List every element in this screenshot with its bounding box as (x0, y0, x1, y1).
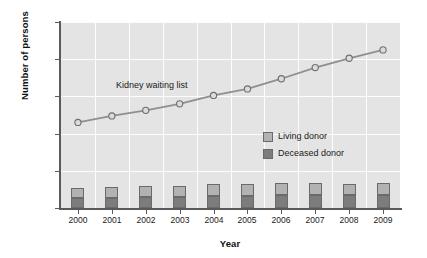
x-tick-mark (112, 210, 113, 214)
gridline-vertical (264, 22, 265, 208)
bar-segment-deceased-donor (309, 195, 322, 208)
y-axis-line (59, 21, 61, 210)
bar-segment-living-donor (105, 187, 118, 197)
legend-label-deceased-donor: Deceased donor (278, 149, 344, 158)
x-tick-label: 2009 (363, 216, 403, 225)
line-series-annotation: Kidney waiting list (116, 80, 188, 90)
legend-label-living-donor: Living donor (278, 132, 327, 141)
x-tick-mark (315, 210, 316, 214)
bar-segment-deceased-donor (105, 198, 118, 208)
bar-segment-deceased-donor (71, 198, 84, 208)
bar-segment-deceased-donor (377, 195, 390, 208)
bar-segment-living-donor (343, 184, 356, 195)
legend-swatch-living-donor (263, 132, 273, 142)
bar-segment-deceased-donor (241, 196, 254, 208)
x-tick-mark (180, 210, 181, 214)
y-tick-mark (55, 22, 59, 23)
gridline-vertical (366, 22, 367, 208)
gridline-vertical (231, 22, 232, 208)
y-axis-title: Number of persons (19, 0, 30, 126)
x-tick-mark (281, 210, 282, 214)
x-tick-mark (247, 210, 248, 214)
y-tick-mark (55, 208, 59, 209)
legend-item-living-donor: Living donor (263, 131, 344, 142)
kidney-waiting-list-chart: 020,00040,00060,00080,000100,000 2000200… (0, 0, 427, 258)
gridline-vertical (197, 22, 198, 208)
x-tick-mark (78, 210, 79, 214)
gridline-vertical (332, 22, 333, 208)
bar-segment-deceased-donor (343, 195, 356, 208)
x-tick-mark (349, 210, 350, 214)
gridline-vertical (163, 22, 164, 208)
gridline-vertical (129, 22, 130, 208)
bar-segment-living-donor (139, 186, 152, 197)
y-tick-mark (55, 96, 59, 97)
x-tick-mark (214, 210, 215, 214)
x-tick-mark (383, 210, 384, 214)
bar-segment-living-donor (71, 188, 84, 197)
bar-segment-deceased-donor (173, 197, 186, 208)
y-tick-mark (55, 59, 59, 60)
x-axis-line (59, 208, 402, 210)
bar-segment-living-donor (241, 184, 254, 196)
bar-segment-living-donor (309, 183, 322, 195)
bar-segment-living-donor (275, 183, 288, 195)
x-axis-title: Year (60, 238, 400, 249)
x-tick-mark (146, 210, 147, 214)
chart-legend: Living donor Deceased donor (263, 131, 344, 165)
bar-segment-living-donor (173, 186, 186, 197)
bar-segment-deceased-donor (207, 196, 220, 208)
gridline-vertical (298, 22, 299, 208)
y-tick-mark (55, 134, 59, 135)
legend-item-deceased-donor: Deceased donor (263, 148, 344, 159)
bar-segment-living-donor (207, 184, 220, 196)
legend-swatch-deceased-donor (263, 149, 273, 159)
gridline-vertical (95, 22, 96, 208)
y-tick-mark (55, 171, 59, 172)
bar-segment-deceased-donor (275, 195, 288, 208)
bar-segment-deceased-donor (139, 197, 152, 208)
bar-segment-living-donor (377, 183, 390, 195)
